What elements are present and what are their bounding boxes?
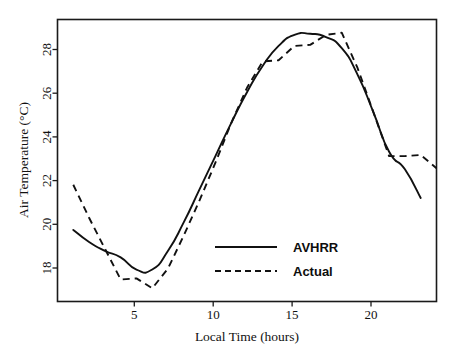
x-tick-label-10: 10 [207,307,220,322]
chart-background [0,0,455,351]
y-tick-label-28: 28 [39,43,54,56]
legend-label-avhrr: AVHRR [293,240,339,255]
x-axis-title: Local Time (hours) [195,329,299,344]
air-temperature-line-chart: 18 20 22 24 26 28 Air Temperature (°C) 5… [0,0,455,351]
y-tick-label-22: 22 [39,174,54,187]
y-tick-label-24: 24 [39,130,54,144]
chart-figure: 18 20 22 24 26 28 Air Temperature (°C) 5… [0,0,455,351]
x-tick-label-5: 5 [131,307,138,322]
y-tick-label-20: 20 [39,218,54,231]
x-tick-label-20: 20 [365,307,378,322]
y-tick-label-18: 18 [39,262,54,275]
legend-label-actual: Actual [293,264,333,279]
y-tick-label-26: 26 [39,86,54,100]
x-tick-label-15: 15 [286,307,299,322]
y-axis-title: Air Temperature (°C) [16,102,31,218]
